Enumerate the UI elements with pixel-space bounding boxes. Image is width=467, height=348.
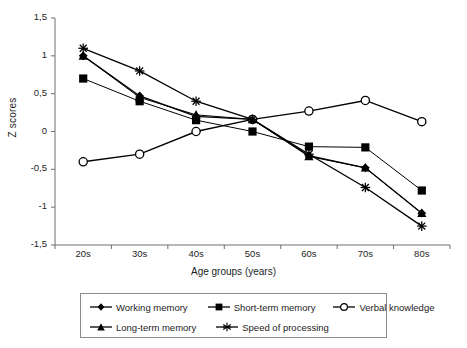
data-point bbox=[135, 66, 145, 76]
legend-label-working-memory: Working memory bbox=[113, 302, 188, 313]
legend-label-long-term-memory: Long-term memory bbox=[113, 322, 196, 333]
data-point bbox=[78, 43, 88, 53]
legend-key-filled-square-icon bbox=[207, 301, 231, 313]
legend-key-filled-triangle-icon bbox=[89, 321, 113, 333]
data-point bbox=[305, 107, 313, 115]
legend-item-verbal-knowledge[interactable]: Verbal knowledge bbox=[332, 301, 434, 313]
data-point bbox=[418, 186, 426, 194]
series-layer bbox=[78, 43, 426, 230]
data-point bbox=[191, 96, 201, 106]
legend-key-filled-diamond-icon bbox=[89, 301, 113, 313]
legend-item-working-memory[interactable]: Working memory bbox=[89, 301, 188, 313]
legend-label-verbal-knowledge: Verbal knowledge bbox=[356, 302, 434, 313]
data-point bbox=[361, 96, 369, 104]
chart-figure: Z scores Age groups (years) 1,510,50-0,5… bbox=[0, 0, 467, 348]
data-point bbox=[418, 118, 426, 126]
series-short-term-memory bbox=[79, 74, 426, 194]
series-speed-of-processing bbox=[78, 43, 426, 230]
legend-item-short-term-memory[interactable]: Short-term memory bbox=[207, 301, 316, 313]
legend-label-short-term-memory: Short-term memory bbox=[231, 302, 316, 313]
legend-key-open-circle-icon bbox=[332, 301, 356, 313]
chart-legend: Working memory Short-term memory Verbal … bbox=[80, 293, 387, 338]
data-point bbox=[417, 221, 427, 231]
data-point bbox=[361, 183, 371, 193]
data-point bbox=[361, 143, 369, 151]
legend-row-2: Long-term memory Speed of processing bbox=[89, 317, 329, 337]
data-point bbox=[248, 127, 256, 135]
legend-item-long-term-memory[interactable]: Long-term memory bbox=[89, 321, 196, 333]
data-point bbox=[304, 149, 314, 159]
data-point bbox=[79, 158, 87, 166]
legend-row-1: Working memory Short-term memory Verbal … bbox=[89, 297, 434, 317]
data-point bbox=[248, 115, 258, 125]
legend-key-star-icon bbox=[215, 321, 239, 333]
data-point bbox=[79, 74, 87, 82]
data-point bbox=[136, 150, 144, 158]
legend-item-speed-of-processing[interactable]: Speed of processing bbox=[215, 321, 329, 333]
data-point bbox=[192, 127, 200, 135]
legend-label-speed-of-processing: Speed of processing bbox=[239, 322, 329, 333]
